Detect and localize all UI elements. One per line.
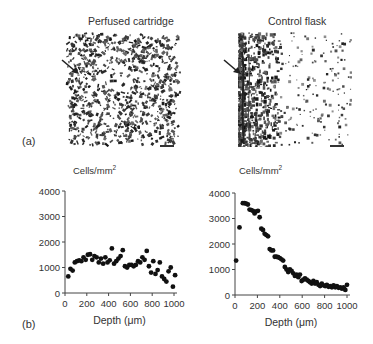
x-tick-label: 200 bbox=[249, 300, 265, 311]
data-point bbox=[70, 268, 75, 273]
scatter-chart-perfused: 0100020003000400002004006008001000Depth … bbox=[0, 180, 190, 330]
scale-bar bbox=[160, 145, 174, 147]
data-point bbox=[298, 272, 303, 277]
x-tick-label: 600 bbox=[122, 298, 138, 309]
y-axis-label-left: Cells/mm2 bbox=[73, 164, 116, 176]
y-axis-label-sup: 2 bbox=[113, 164, 117, 171]
x-tick-label: 400 bbox=[101, 298, 117, 309]
scatter-chart-control: 0100020003000400002004006008001000Depth … bbox=[185, 180, 373, 330]
data-point bbox=[99, 256, 104, 261]
x-tick-label: 0 bbox=[232, 300, 237, 311]
y-axis-label-right: Cells/mm2 bbox=[239, 164, 282, 176]
x-tick-label: 200 bbox=[79, 298, 95, 309]
y-tick-label: 0 bbox=[225, 290, 230, 301]
data-point bbox=[164, 279, 169, 284]
microscopy-control-flask bbox=[232, 32, 352, 147]
data-point bbox=[168, 265, 173, 270]
data-point bbox=[88, 252, 93, 257]
y-tick-label: 1000 bbox=[209, 264, 230, 275]
y-axis-label-sup: 2 bbox=[279, 164, 283, 171]
data-point bbox=[138, 260, 143, 265]
data-point bbox=[94, 255, 99, 260]
data-point bbox=[107, 258, 112, 263]
x-tick-label: 800 bbox=[317, 300, 333, 311]
data-point bbox=[173, 273, 178, 278]
data-point bbox=[83, 257, 88, 262]
data-point bbox=[256, 208, 261, 213]
y-tick-label: 4000 bbox=[209, 188, 230, 199]
x-axis-label: Depth (μm) bbox=[265, 316, 318, 328]
arrow-down-right-icon bbox=[222, 58, 244, 76]
y-axis-label-text: Cells/mm bbox=[73, 165, 113, 176]
title-perfused-cartridge: Perfused cartridge bbox=[88, 15, 174, 27]
data-point bbox=[343, 288, 348, 293]
data-point bbox=[237, 225, 242, 230]
y-axis-label-text: Cells/mm bbox=[239, 165, 279, 176]
scale-bar bbox=[330, 145, 344, 147]
data-point bbox=[66, 274, 71, 279]
microscopy-perfused-cartridge bbox=[60, 32, 182, 147]
y-tick-label: 3000 bbox=[39, 211, 60, 222]
x-tick-label: 1000 bbox=[163, 298, 184, 309]
data-point bbox=[151, 259, 156, 264]
x-tick-label: 1000 bbox=[336, 300, 357, 311]
data-point bbox=[271, 248, 276, 253]
title-control-flask: Control flask bbox=[268, 15, 326, 27]
data-point bbox=[281, 258, 286, 263]
data-point bbox=[147, 264, 152, 269]
x-tick-label: 0 bbox=[62, 298, 67, 309]
panel-label-a: (a) bbox=[22, 135, 35, 147]
y-tick-label: 3000 bbox=[209, 213, 230, 224]
x-axis-label: Depth (μm) bbox=[93, 314, 146, 326]
data-point bbox=[345, 282, 350, 287]
data-point bbox=[118, 254, 123, 259]
arrow-down-right-icon bbox=[60, 58, 82, 76]
x-tick-label: 800 bbox=[144, 298, 160, 309]
data-point bbox=[266, 234, 271, 239]
data-point bbox=[142, 257, 147, 262]
data-point bbox=[149, 270, 154, 275]
data-point bbox=[171, 284, 176, 289]
data-point bbox=[157, 260, 162, 265]
y-tick-label: 1000 bbox=[39, 262, 60, 273]
data-point bbox=[101, 261, 106, 266]
data-point bbox=[120, 248, 125, 253]
data-point bbox=[257, 215, 262, 220]
data-point bbox=[234, 258, 239, 263]
panel-label-b: (b) bbox=[22, 318, 35, 330]
x-tick-label: 600 bbox=[294, 300, 310, 311]
data-point bbox=[109, 246, 114, 251]
y-tick-label: 2000 bbox=[209, 239, 230, 250]
y-tick-label: 0 bbox=[55, 288, 60, 299]
data-point bbox=[103, 255, 108, 260]
data-point bbox=[155, 268, 160, 273]
y-tick-label: 2000 bbox=[39, 237, 60, 248]
data-point bbox=[245, 202, 250, 207]
y-tick-label: 4000 bbox=[39, 186, 60, 197]
x-tick-label: 400 bbox=[272, 300, 288, 311]
data-point bbox=[144, 249, 149, 254]
